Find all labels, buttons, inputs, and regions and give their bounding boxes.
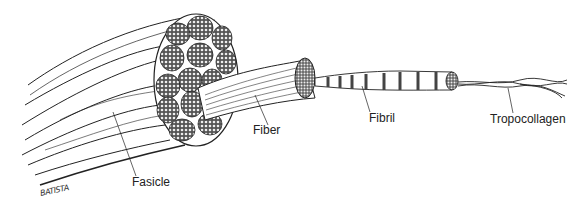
fasicle-label: Fasicle — [132, 176, 170, 188]
tropocollagen-label: Tropocollagen — [490, 113, 566, 125]
fiber-label: Fiber — [253, 124, 280, 136]
fibril-strand — [315, 71, 458, 90]
fibril-label: Fibril — [369, 112, 395, 124]
diagram-illustration — [0, 0, 587, 209]
tropocollagen-helix — [458, 78, 567, 98]
collagen-hierarchy-diagram: Fasicle Fiber Fibril Tropocollagen BATIS… — [0, 0, 587, 209]
